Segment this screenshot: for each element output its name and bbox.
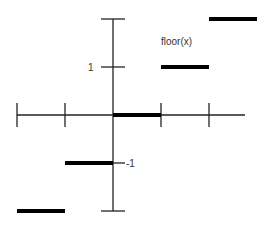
chart-title: floor(x): [161, 36, 192, 47]
y-label-1: 1: [88, 62, 94, 73]
y-label-neg1: -1: [126, 158, 135, 169]
floor-function-chart: 1 -1 floor(x): [0, 0, 269, 226]
